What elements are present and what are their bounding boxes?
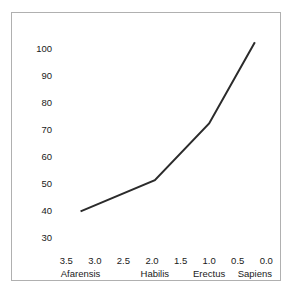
chart-figure: Brain size against age 10090807060504030… bbox=[0, 0, 293, 293]
data-series-line bbox=[0, 0, 293, 293]
